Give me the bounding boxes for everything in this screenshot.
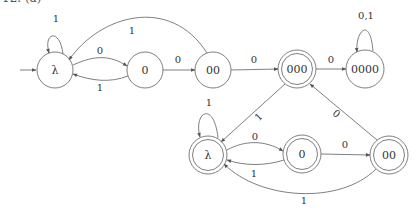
state-label: 0 (299, 148, 306, 161)
edge-lower-00-to-000 (310, 84, 377, 140)
edge-label: 1 (206, 97, 212, 108)
edge-bottom-lambda-self (199, 114, 218, 138)
edge-top-00-to-000 (231, 69, 278, 70)
edge-top-0-to-lambda (73, 74, 128, 80)
edge-top-lambda-self (48, 36, 63, 54)
edge-label: 0 (342, 139, 348, 150)
state-diagram: λ 0 00 000 0000 λ 0 00 1 0 1 1 0 0 0 0,1… (0, 0, 417, 213)
edge-label: 0 (252, 131, 258, 142)
edge-bottom-00-to-lambda (224, 164, 376, 194)
state-label: 0000 (351, 63, 379, 76)
edge-bottom-0-to-00 (321, 154, 370, 155)
state-label: 00 (382, 149, 396, 162)
edge-bottom-0-to-lambda (227, 160, 284, 165)
state-label: 000 (287, 63, 308, 76)
edge-top-0000-self (357, 30, 373, 52)
edge-label: 0 (328, 54, 334, 65)
state-label: λ (205, 149, 212, 162)
edge-label: 0 (175, 54, 181, 65)
edge-bottom-lambda-to-0 (227, 143, 283, 151)
edge-label: 0,1 (358, 10, 374, 21)
edge-label: 0 (251, 54, 257, 65)
edge-top-lambda-to-0 (73, 58, 127, 66)
edge-label: 1 (251, 168, 257, 179)
edge-label: 1 (129, 25, 135, 36)
state-label: 00 (206, 64, 220, 77)
state-label: 0 (142, 64, 149, 77)
edge-label: 1 (301, 195, 307, 206)
edge-label: 1 (253, 111, 265, 123)
edge-label: 1 (97, 82, 103, 93)
state-label: λ (52, 64, 59, 77)
edge-label: 0 (97, 45, 103, 56)
edge-label: 1 (53, 13, 59, 24)
edge-label: 0 (330, 107, 342, 120)
